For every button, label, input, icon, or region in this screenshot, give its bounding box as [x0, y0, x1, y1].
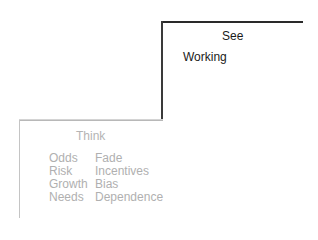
lower-step-top-line	[19, 119, 163, 121]
lower-step-item: Needs	[49, 191, 88, 204]
lower-step-left-column: Odds Risk Growth Needs	[49, 152, 88, 204]
step-riser-line	[161, 21, 163, 121]
upper-step-title: See	[222, 30, 243, 42]
lower-step-right-column: Fade Incentives Bias Dependence	[95, 152, 163, 204]
upper-step-top-line	[162, 21, 303, 23]
upper-step-item: Working	[183, 51, 227, 63]
lower-step-title: Think	[76, 130, 105, 142]
lower-step-item: Dependence	[95, 191, 163, 204]
lower-step-left-line	[19, 120, 20, 218]
